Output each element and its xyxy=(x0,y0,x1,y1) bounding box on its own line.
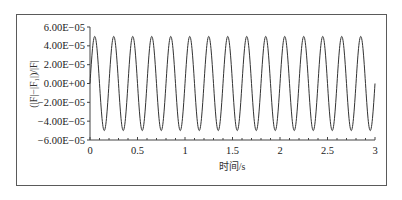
y-tick-label: −6.00E−05 xyxy=(38,135,85,146)
y-tick-label: 2.00E−05 xyxy=(44,59,85,70)
y-axis-ticks: 6.00E−054.00E−052.00E−050.00E+00−2.00E−0… xyxy=(38,22,90,146)
y-axis-label: (|F|−|F₁|)/|F| xyxy=(28,60,40,107)
x-tick-label: 0.5 xyxy=(131,145,144,156)
x-tick-label: 1.5 xyxy=(226,145,239,156)
data-series-line xyxy=(90,36,375,130)
x-tick-label: 0 xyxy=(87,145,92,156)
x-tick-label: 3 xyxy=(372,145,377,156)
y-tick-label: −2.00E−05 xyxy=(38,97,85,108)
y-tick-label: 6.00E−05 xyxy=(44,22,85,33)
x-tick-label: 2 xyxy=(277,145,282,156)
x-tick-label: 1 xyxy=(182,145,187,156)
line-chart: 6.00E−054.00E−052.00E−050.00E+00−2.00E−0… xyxy=(0,0,402,200)
y-tick-label: 4.00E−05 xyxy=(44,40,85,51)
y-tick-label: 0.00E+00 xyxy=(44,78,85,89)
x-axis-label: 时间/s xyxy=(219,160,246,172)
y-tick-label: −4.00E−05 xyxy=(38,116,85,127)
x-tick-label: 2.5 xyxy=(321,145,334,156)
